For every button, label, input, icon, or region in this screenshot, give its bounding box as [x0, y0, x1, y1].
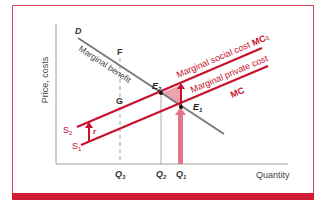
s1-label: S1 [72, 141, 82, 152]
q1-tick-label: Q1 [176, 169, 187, 180]
mc-label: MC [229, 85, 246, 100]
e2-label: E2 [152, 81, 162, 92]
marginal-private-cost-line [81, 66, 268, 145]
externality-chart: Price, costs Quantity r D Marginal benef… [0, 0, 320, 207]
q1-bar [178, 114, 183, 164]
g-label: G [116, 96, 123, 106]
bottom-band [12, 193, 314, 200]
x-axis-label: Quantity [256, 170, 290, 180]
s2-label: S2 [63, 125, 73, 136]
r-label: r [93, 127, 97, 136]
f-label: F [117, 47, 123, 57]
e1-label: E1 [193, 102, 203, 113]
q3-tick-label: Q3 [115, 169, 126, 180]
e1-point [179, 105, 183, 109]
y-axis-label: Price, costs [40, 56, 50, 103]
d-label: D [75, 26, 82, 36]
marginal-benefit-label: Marginal benefit [77, 43, 134, 85]
q2-tick-label: Q2 [156, 169, 167, 180]
